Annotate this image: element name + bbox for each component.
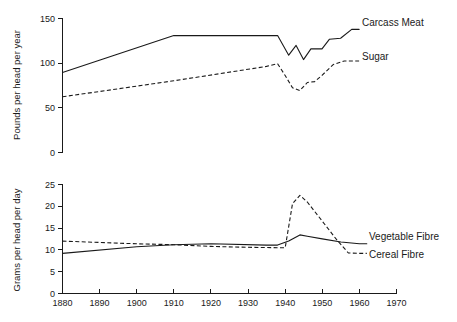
- bottom-chart-ytick-15: 15: [45, 223, 55, 233]
- top-chart-ytick-150: 150: [40, 14, 55, 24]
- chart-svg: 150 100 50 0 Pounds per head per year Ca…: [0, 0, 457, 322]
- bottom-chart-ytick-20: 20: [45, 201, 55, 211]
- bottom-chart-xtick-1970: 1970: [386, 298, 406, 308]
- series-cereal-fibre-line: [63, 195, 367, 253]
- top-chart-ytick-0: 0: [50, 148, 55, 158]
- top-chart-y-ticks: [58, 19, 63, 153]
- series-label-carcass-meat: Carcass Meat: [362, 17, 424, 28]
- bottom-chart-xtick-1930: 1930: [238, 298, 258, 308]
- bottom-chart-y-ticks: [58, 185, 63, 294]
- bottom-chart: 25 20 15 10 5 0 Grams per head per day: [11, 180, 439, 309]
- top-chart: 150 100 50 0 Pounds per head per year Ca…: [11, 14, 424, 158]
- series-sugar-line: [63, 61, 360, 97]
- top-chart-ytick-100: 100: [40, 58, 55, 68]
- bottom-chart-xtick-1910: 1910: [164, 298, 184, 308]
- series-carcass-meat-line: [63, 29, 360, 72]
- bottom-chart-ytick-25: 25: [45, 180, 55, 190]
- top-chart-y-axis-label: Pounds per head per year: [11, 30, 22, 140]
- chart-figure: 150 100 50 0 Pounds per head per year Ca…: [0, 0, 457, 322]
- bottom-chart-xtick-1950: 1950: [312, 298, 332, 308]
- series-label-vegetable-fibre: Vegetable Fibre: [369, 231, 439, 242]
- bottom-chart-ytick-5: 5: [50, 267, 55, 277]
- series-label-sugar: Sugar: [362, 51, 389, 62]
- top-chart-ytick-50: 50: [45, 103, 55, 113]
- bottom-chart-ytick-0: 0: [50, 289, 55, 299]
- series-vegetable-fibre-line: [63, 235, 367, 254]
- bottom-chart-xtick-1960: 1960: [349, 298, 369, 308]
- bottom-chart-xtick-1940: 1940: [275, 298, 295, 308]
- bottom-chart-xtick-1900: 1900: [127, 298, 147, 308]
- bottom-chart-x-ticks: [63, 289, 397, 294]
- series-label-cereal-fibre: Cereal Fibre: [369, 249, 424, 260]
- bottom-chart-xtick-1920: 1920: [201, 298, 221, 308]
- bottom-chart-ytick-10: 10: [45, 245, 55, 255]
- bottom-chart-xtick-1890: 1890: [90, 298, 110, 308]
- bottom-chart-xtick-1880: 1880: [52, 298, 72, 308]
- bottom-chart-y-axis-label: Grams per head per day: [11, 188, 22, 291]
